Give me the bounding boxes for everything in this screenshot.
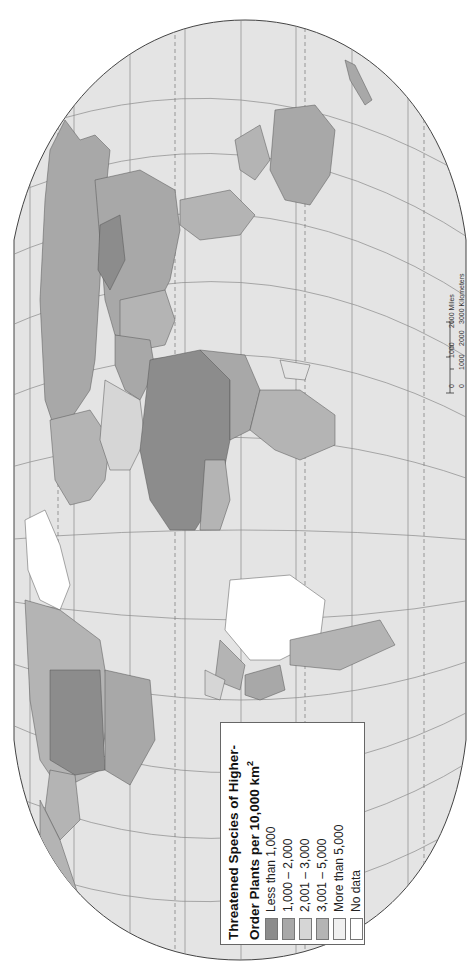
legend-title-line1: Threatened Species of Higher- (226, 729, 242, 940)
legend-item: Less than 1,000 (263, 729, 280, 940)
legend-label: 1,000 – 2,000 (281, 839, 295, 912)
legend-label: Less than 1,000 (264, 827, 278, 912)
scale-labels: 0 1000 2000 Miles 0 1000 2000 3000 Kilom… (418, 250, 468, 390)
scale-mi-0: 0 (448, 384, 455, 388)
legend-label: No data (349, 870, 363, 912)
legend-label: More than 5,000 (332, 825, 346, 912)
scale-km-2000: 2000 (458, 330, 465, 346)
legend-item: No data (348, 729, 365, 940)
legend-swatch (282, 918, 295, 940)
scale-mi-2000: 2000 Miles (448, 294, 455, 328)
scale-km-3000: 3000 Kilometers (458, 273, 465, 324)
legend-swatch (316, 918, 329, 940)
region-usa (50, 670, 105, 775)
scale-mi-1000: 1000 (448, 342, 455, 358)
legend-item: 1,000 – 2,000 (280, 729, 297, 940)
legend-swatch (333, 918, 346, 940)
legend-label: 3,001 – 5,000 (315, 839, 329, 912)
legend-title-line2: Order Plants per 10,000 km (247, 766, 262, 940)
legend-item: More than 5,000 (331, 729, 348, 940)
legend-swatch (265, 918, 278, 940)
scale-km-1000: 1000 (458, 354, 465, 370)
legend-title: Threatened Species of Higher- Order Plan… (226, 729, 263, 940)
legend-swatch (350, 918, 363, 940)
legend: Threatened Species of Higher- Order Plan… (220, 722, 365, 945)
scale-km-0: 0 (458, 384, 465, 388)
legend-item: 3,001 – 5,000 (314, 729, 331, 940)
legend-item: 2,001 – 3,000 (297, 729, 314, 940)
legend-title-sup: 2 (245, 761, 255, 766)
legend-swatch (299, 918, 312, 940)
legend-label: 2,001 – 3,000 (298, 839, 312, 912)
